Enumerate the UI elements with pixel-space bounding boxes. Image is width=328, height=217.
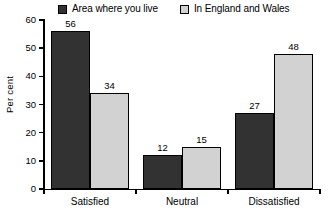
bar (235, 113, 274, 189)
y-tick-label-wrap: 30 (16, 105, 36, 106)
y-tick-label: 0 (16, 184, 36, 194)
bar (274, 54, 313, 189)
bar (143, 155, 182, 189)
legend-label: In England and Wales (194, 4, 289, 14)
x-axis-category-label: Dissatisfied (228, 196, 320, 207)
legend-label: Area where you live (72, 4, 158, 14)
y-tick-label-wrap: 10 (16, 161, 36, 162)
bar-value-label: 15 (182, 135, 221, 145)
x-tick-mark (319, 189, 321, 194)
bar (51, 31, 90, 189)
bar-chart: Area where you live In England and Wales… (0, 0, 328, 217)
y-tick-label-wrap: 60 (16, 20, 36, 21)
legend-swatch-icon (180, 5, 189, 14)
x-axis-category-label: Satisfied (44, 196, 136, 207)
bar-value-label: 34 (90, 81, 129, 91)
y-tick-label: 30 (16, 100, 36, 110)
chart-legend: Area where you live In England and Wales (58, 2, 289, 16)
y-tick-label: 60 (16, 15, 36, 25)
y-tick-label-wrap: 0 (16, 189, 36, 190)
y-tick-label: 40 (16, 71, 36, 81)
y-tick-label: 50 (16, 43, 36, 53)
bar (182, 147, 221, 189)
bar (90, 93, 129, 189)
y-tick-label: 10 (16, 156, 36, 166)
y-tick-label-wrap: 40 (16, 76, 36, 77)
bar-value-label: 56 (51, 19, 90, 29)
x-tick-mark (227, 189, 229, 194)
legend-item-in-england-and-wales: In England and Wales (180, 4, 289, 14)
legend-swatch-icon (58, 5, 67, 14)
y-axis-title-text: Per cent (4, 76, 15, 113)
x-tick-mark (43, 189, 45, 194)
x-tick-mark (135, 189, 137, 194)
bar-value-label: 12 (143, 143, 182, 153)
y-axis-title: Per cent (2, 0, 16, 189)
y-tick-label-wrap: 20 (16, 133, 36, 134)
y-tick-label-wrap: 50 (16, 48, 36, 49)
bar-value-label: 48 (274, 42, 313, 52)
x-axis-category-label: Neutral (136, 196, 228, 207)
legend-item-area-where-you-live: Area where you live (58, 4, 158, 14)
y-tick-label: 20 (16, 128, 36, 138)
bar-value-label: 27 (235, 101, 274, 111)
